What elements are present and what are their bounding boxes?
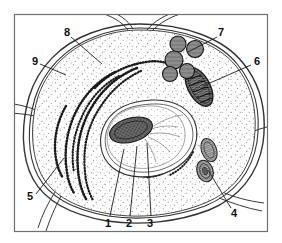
microbody <box>180 64 195 79</box>
cell-diagram-figure: 1 2 3 4 5 6 7 8 9 <box>0 0 282 243</box>
microbody <box>187 41 204 58</box>
label-5: 5 <box>27 190 33 202</box>
label-9: 9 <box>32 55 38 67</box>
label-7: 7 <box>218 26 224 38</box>
label-6: 6 <box>254 55 260 67</box>
plant-cell-diagram: 1 2 3 4 5 6 7 8 9 <box>0 0 282 243</box>
label-4: 4 <box>231 207 238 219</box>
label-2: 2 <box>126 217 132 229</box>
label-1: 1 <box>105 217 111 229</box>
microbody <box>170 36 186 52</box>
microbody <box>163 67 178 82</box>
label-3: 3 <box>147 217 153 229</box>
label-8: 8 <box>64 26 70 38</box>
